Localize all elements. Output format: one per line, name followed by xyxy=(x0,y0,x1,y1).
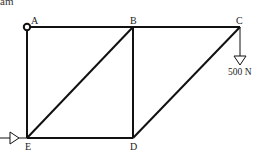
load-label: 500 N xyxy=(228,68,252,78)
member-eb xyxy=(27,27,133,138)
truss-members xyxy=(27,27,240,138)
node-label-a: A xyxy=(31,16,38,26)
truss-diagram xyxy=(0,0,258,157)
node-label-e: E xyxy=(25,142,31,152)
node-label-d: D xyxy=(130,142,137,152)
roller-support-icon xyxy=(0,132,27,144)
member-dc xyxy=(133,27,240,138)
node-label-c: C xyxy=(236,16,243,26)
node-label-b: B xyxy=(130,16,137,26)
pin-support-icon xyxy=(24,24,30,30)
